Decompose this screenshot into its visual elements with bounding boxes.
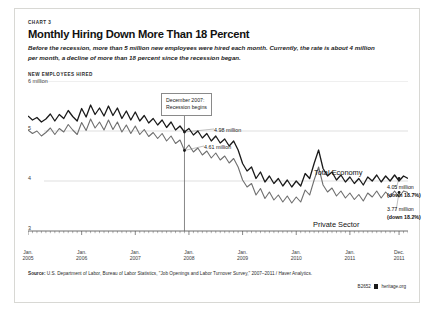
chart-card: CHART 3 Monthly Hiring Down More Than 18… (14, 8, 420, 303)
y-axis-title: NEW EMPLOYEES HIRED (28, 72, 93, 77)
series-label-total-economy: Total Economy (314, 168, 362, 177)
x-tick-label-2010-5: Jan.2010 (291, 249, 302, 262)
end-change-private: (down 18.2%) (387, 214, 421, 222)
end-value-total: 4.05 million (387, 184, 421, 192)
x-axis-tick-labels: Jan.2005Jan.2006Jan.2007Jan.2008Jan.2009… (28, 249, 408, 265)
value-note-private-recession: 4.61 million (204, 144, 231, 150)
recession-callout-line-1: December 2007: (166, 97, 207, 105)
source-label: Source: (28, 271, 45, 276)
x-axis-ticks (28, 231, 408, 235)
footer-attribution: B2652 heritage.org (358, 284, 406, 289)
value-note-total-recession: 4.98 million (214, 127, 241, 133)
chart-subtitle: Before the recession, more than 5 millio… (28, 43, 380, 63)
chart-card-inner: CHART 3 Monthly Hiring Down More Than 18… (15, 9, 419, 302)
chart-id-label: B2652 (358, 284, 371, 289)
recession-callout-box: December 2007: Recession begins (161, 93, 212, 116)
chart-title: Monthly Hiring Down More Than 18 Percent (28, 28, 249, 40)
site-label: heritage.org (381, 284, 406, 289)
end-change-total: (down 18.7%) (387, 192, 421, 200)
x-tick-label-2006-1: Jan.2006 (76, 249, 87, 262)
source-note: Source: U.S. Department of Labor, Bureau… (28, 271, 408, 277)
x-tick-label-2007-2: Jan.2007 (130, 249, 141, 262)
heritage-logo-icon (374, 284, 379, 289)
end-label-private-sector: 3.77 million (down 18.2%) (387, 206, 421, 221)
x-tick-label-2005-0: Jan.2005 (22, 249, 33, 262)
annotation-leader-lines (184, 129, 399, 211)
end-label-total-economy: 4.05 million (down 18.7%) (387, 184, 421, 199)
y-tick-label-3: 3 (28, 225, 31, 231)
x-tick-label-2008-3: Jan.2008 (183, 249, 194, 262)
recession-callout-line-2: Recession begins (166, 104, 207, 112)
y-tick-label-6: 6 million (28, 78, 48, 84)
series-label-private-sector: Private Sector (313, 220, 359, 229)
end-value-private: 3.77 million (387, 206, 421, 214)
annotated-point-markers (183, 131, 400, 194)
chart-number-label: CHART 3 (28, 20, 51, 25)
x-tick-label-2009-4: Jan.2009 (237, 249, 248, 262)
source-text: U.S. Department of Labor, Bureau of Labo… (47, 271, 312, 276)
y-tick-label-5: 5 (28, 125, 31, 131)
x-tick-label-2011-6: Jan.2011 (344, 249, 355, 262)
x-tick-label-2011-7: Dec.2011 (394, 249, 405, 262)
y-tick-label-4: 4 (28, 175, 31, 181)
